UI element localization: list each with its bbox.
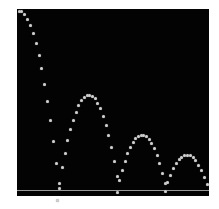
ball-image xyxy=(194,159,197,162)
ball-image xyxy=(116,191,119,194)
ball-image xyxy=(66,139,69,142)
ball-image xyxy=(40,67,43,70)
ball-image xyxy=(38,54,41,57)
ball-image xyxy=(56,199,59,202)
ball-image xyxy=(99,107,102,110)
ball-image xyxy=(107,134,110,137)
ball-image xyxy=(169,174,172,177)
ball-image xyxy=(158,162,161,165)
ball-image xyxy=(80,99,83,102)
ball-image xyxy=(94,97,97,100)
ball-image xyxy=(200,169,203,172)
ball-image xyxy=(29,24,32,27)
bouncing-ball-photo xyxy=(17,9,209,196)
ball-image xyxy=(61,166,64,169)
ball-image xyxy=(172,167,175,170)
ball-image xyxy=(118,179,121,182)
ball-image xyxy=(148,138,151,141)
ball-image xyxy=(206,183,209,186)
ball-image xyxy=(113,160,116,163)
ball-image xyxy=(116,175,119,178)
ball-image xyxy=(164,190,167,193)
ball-image xyxy=(203,176,206,179)
ball-image xyxy=(96,102,99,105)
ball-image xyxy=(121,169,124,172)
ball-image xyxy=(126,152,129,155)
floor-line xyxy=(17,190,209,191)
ball-image xyxy=(26,18,29,21)
ball-image xyxy=(49,119,52,122)
ball-image xyxy=(132,141,135,144)
ball-image xyxy=(150,142,153,145)
ball-image xyxy=(156,154,159,157)
ball-image xyxy=(129,146,132,149)
ball-image xyxy=(69,128,72,131)
ball-image xyxy=(124,160,127,163)
ball-image xyxy=(105,124,108,127)
ball-image xyxy=(64,152,67,155)
ball-image xyxy=(161,172,164,175)
ball-image xyxy=(197,164,200,167)
ball-image xyxy=(166,181,169,184)
ball-image xyxy=(23,13,26,16)
ball-image xyxy=(58,182,61,185)
ball-image xyxy=(43,83,46,86)
ball-image xyxy=(75,111,78,114)
ball-image xyxy=(77,104,80,107)
ball-image xyxy=(52,140,55,143)
ball-image xyxy=(55,162,58,165)
ball-image xyxy=(153,147,156,150)
ball-image xyxy=(110,146,113,149)
ball-image xyxy=(72,119,75,122)
ball-image xyxy=(46,100,49,103)
ball-image xyxy=(178,158,181,161)
ball-image xyxy=(175,162,178,165)
ball-image xyxy=(35,42,38,45)
ball-image xyxy=(32,32,35,35)
ball-image xyxy=(58,187,61,190)
ball-image xyxy=(102,115,105,118)
